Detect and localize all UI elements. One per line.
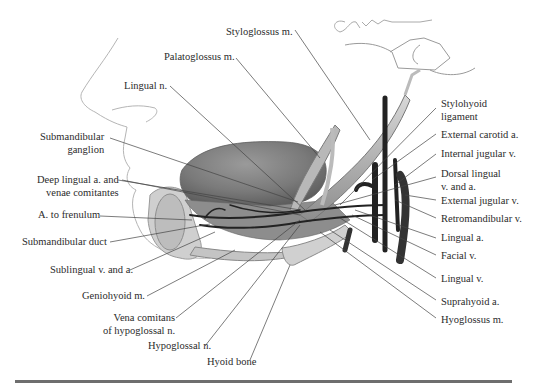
label-hyoid-bone: Hyoid bone [207, 356, 256, 369]
label-sublingual: Sublingual v. and a. [50, 264, 133, 277]
label-lingual-artery: Lingual a. [441, 232, 484, 245]
label-dorsal-lingual: Dorsal lingual v. and a. [441, 168, 501, 193]
label-submandibular-duct: Submandibular duct [22, 236, 107, 249]
label-submandibular-ganglion: Submandibular ganglion [40, 131, 104, 156]
label-hyoglossus: Hyoglossus m. [441, 314, 503, 327]
label-line: venae comitantes [37, 187, 119, 200]
label-artery-frenulum: A. to frenulum [38, 209, 100, 222]
label-line: Submandibular [40, 131, 104, 144]
label-geniohyoid: Geniohyoid m. [82, 290, 145, 303]
label-line: Deep lingual a. and [37, 174, 119, 187]
label-deep-lingual: Deep lingual a. and venae comitantes [37, 174, 119, 199]
label-vena-comitans: Vena comitans of hypoglossal n. [103, 312, 175, 337]
label-internal-jugular: Internal jugular v. [441, 148, 516, 161]
label-line: Stylohyoid [441, 98, 487, 111]
ear-outline [345, 38, 475, 75]
label-line: v. and a. [441, 181, 501, 194]
label-line: Dorsal lingual [441, 168, 501, 181]
label-line: ganglion [40, 144, 104, 157]
label-palatoglossus: Palatoglossus m. [164, 51, 235, 64]
anatomy-figure: Styloglossus m. Palatoglossus m. Lingual… [0, 0, 538, 391]
label-suprahyoid: Suprahyoid a. [441, 296, 499, 309]
label-lingual-nerve: Lingual n. [124, 80, 167, 93]
label-hypoglossal-nerve: Hypoglossal n. [148, 340, 211, 353]
label-lingual-vein: Lingual v. [441, 273, 483, 286]
label-stylohyoid: Stylohyoid ligament [441, 98, 487, 123]
label-facial-vein: Facial v. [441, 250, 476, 263]
signature [335, 20, 432, 32]
figure-caption-cropped: … [15, 387, 25, 391]
label-line: ligament [441, 111, 487, 124]
label-external-carotid: External carotid a. [441, 129, 518, 142]
label-retromandibular: Retromandibular v. [441, 213, 522, 226]
caption-divider [15, 380, 512, 383]
label-line: Vena comitans [103, 312, 175, 325]
label-line: of hypoglossal n. [103, 325, 175, 338]
chin-bone [155, 194, 185, 250]
label-styloglossus: Styloglossus m. [226, 26, 293, 39]
label-external-jugular: External jugular v. [441, 195, 519, 208]
